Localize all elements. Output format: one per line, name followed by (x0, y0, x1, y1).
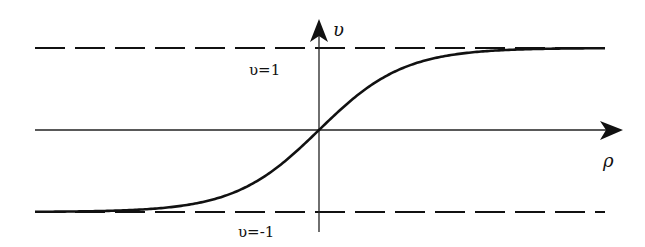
asymptote-lower-label: υ=-1 (238, 223, 274, 241)
asymptote-upper-label: υ=1 (249, 61, 280, 79)
x-axis-label: ρ (602, 150, 614, 171)
kink-diagram: υ ρ υ=1 υ=-1 (0, 0, 645, 247)
y-axis-label: υ (333, 19, 344, 40)
